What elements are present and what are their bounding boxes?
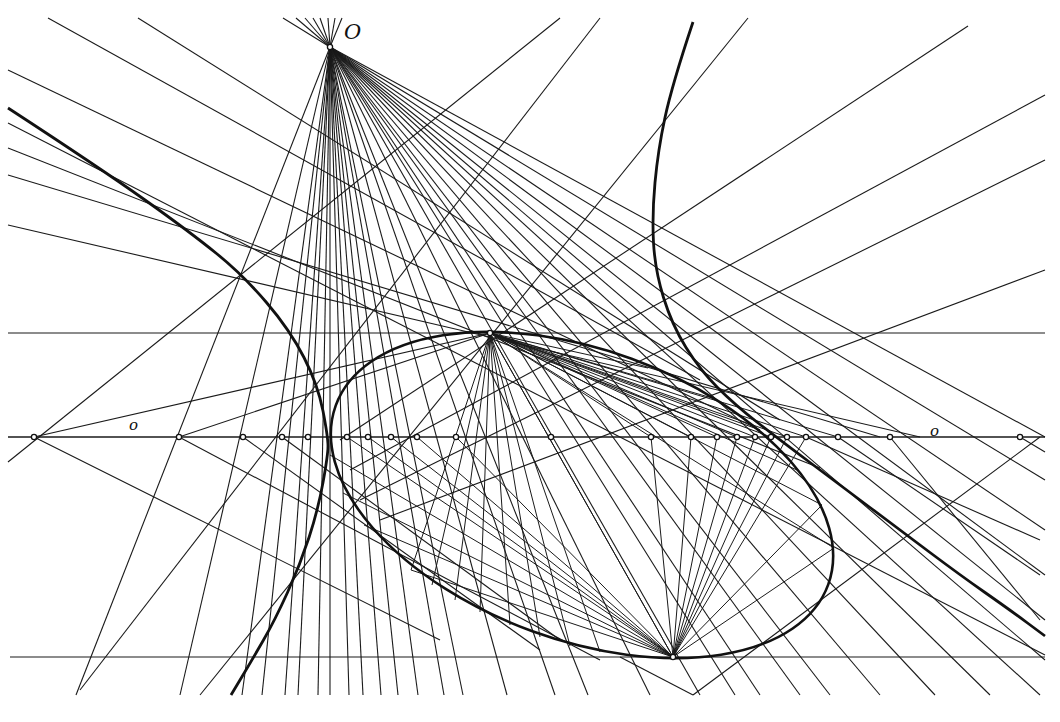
fan-line-top [411,333,490,570]
ray-from-o-upward [330,18,342,47]
ray-from-o [330,47,700,695]
axis-point [648,434,653,439]
ray-from-o [330,47,800,695]
axis-point [887,434,892,439]
axis-point [305,434,310,439]
axis-point [803,434,808,439]
tangent-line [138,18,780,420]
fan-line-top [490,333,822,505]
axis-point [714,434,719,439]
fan-line-top [490,333,510,625]
fan-line-bottom [368,437,673,657]
fan-line-top [490,333,570,646]
axis-point [414,434,419,439]
tangent-line [179,333,490,437]
fan-line-bottom [673,437,787,657]
axis-point [176,434,181,439]
axis-point [768,434,773,439]
tangent-line [8,148,820,468]
axis-point [1017,434,1022,439]
fan-line-bottom [417,437,673,657]
tangent-line [8,18,560,462]
axis-point [548,434,553,439]
ellipse-top-point [487,330,492,335]
fan-line-bottom [673,437,717,657]
center-point-o [327,44,332,49]
axis-point [365,434,370,439]
ray-from-o [330,47,935,695]
tangent-line [179,437,600,660]
fan-line-bottom [411,570,673,657]
ray-from-o-upward [305,18,330,47]
ray-from-o [330,47,444,695]
ray-from-o [330,47,1045,437]
axis-point [752,434,757,439]
axis-point [240,434,245,439]
tangent-line [890,437,1040,620]
tangent-line [693,437,1040,695]
ray-from-o-upward [330,18,335,47]
construction-figure [0,0,1060,722]
tangent-line [380,270,1045,520]
axis-point [453,434,458,439]
tangent-line [243,437,540,650]
ellipse-bottom-point [670,654,675,659]
hyperbola-left-branch [8,108,328,695]
ray-from-o-upward [283,18,330,47]
fan-line-bottom [330,455,673,657]
axis-point [344,434,349,439]
axis-point [734,434,739,439]
fan-line-top [490,333,540,637]
axis-point [784,434,789,439]
fan-line-top [432,333,490,585]
tangent-line [350,95,1045,470]
axis-point [279,434,284,439]
tangent-line [8,123,1045,655]
axis-point [31,434,36,439]
fan-line-bottom [673,437,691,657]
axis-point [835,434,840,439]
axis-point [388,434,393,439]
tangent-line [360,160,1045,500]
tangent-line [8,70,760,430]
axis-point [688,434,693,439]
tangent-line [8,225,920,437]
